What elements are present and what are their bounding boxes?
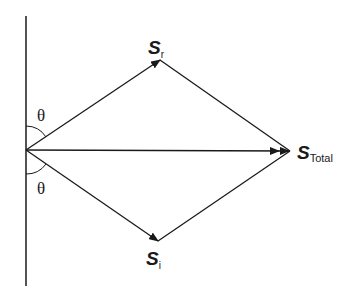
label-s-r: Sr <box>148 37 165 60</box>
parallelogram-side-bottom <box>158 151 290 241</box>
angle-arc-top <box>26 126 46 137</box>
parallelogram-side-top <box>160 60 290 151</box>
label-s-total: STotal <box>297 142 333 164</box>
vector-s-total <box>26 150 289 151</box>
vector-diagram: θ θ Sr Si STotal <box>0 0 363 301</box>
label-s-i: Si <box>146 248 161 271</box>
vector-s-i <box>26 150 158 241</box>
theta-top-label: θ <box>37 106 45 125</box>
theta-bottom-label: θ <box>37 179 45 198</box>
angle-arc-bottom <box>26 164 46 174</box>
double-arrowhead-icon <box>270 147 280 155</box>
